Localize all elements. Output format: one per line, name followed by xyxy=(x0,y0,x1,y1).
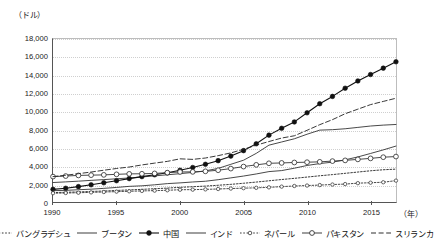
y-tick-label: 0 xyxy=(44,199,48,208)
series-marker-中国 xyxy=(317,101,322,106)
series-marker-パキスタン xyxy=(254,162,259,167)
legend-item-バングラデシュ[interactable]: バングラデシュ xyxy=(0,227,70,239)
series-marker-パキスタン xyxy=(355,157,360,162)
legend-item-ブータン[interactable]: ブータン xyxy=(76,227,132,239)
legend-key-icon xyxy=(370,228,392,238)
y-tick-label: 2,000 xyxy=(29,180,48,189)
series-marker-ネパール xyxy=(64,191,67,194)
legend-item-パキスタン[interactable]: パキスタン xyxy=(301,227,365,239)
x-axis-unit-label: （年） xyxy=(399,208,423,219)
x-tick-mark xyxy=(244,201,245,205)
series-marker-パキスタン xyxy=(203,169,208,174)
series-marker-パキスタン xyxy=(394,154,399,159)
series-marker-ネパール xyxy=(267,186,270,189)
x-tick-label: 2010 xyxy=(299,208,316,217)
y-tick-label: 8,000 xyxy=(29,125,48,134)
series-marker-ネパール xyxy=(343,182,346,185)
series-marker-中国 xyxy=(356,79,361,84)
series-marker-パキスタン xyxy=(330,159,335,164)
series-line-中国 xyxy=(53,62,396,190)
plot-area xyxy=(52,38,397,203)
series-marker-ネパール xyxy=(166,189,169,192)
series-marker-パキスタン xyxy=(305,160,310,165)
legend-label: スリランカ xyxy=(395,227,434,239)
series-marker-中国 xyxy=(102,181,107,186)
x-tick-label: 1995 xyxy=(107,208,124,217)
series-marker-ネパール xyxy=(51,191,54,194)
series-marker-パキスタン xyxy=(267,161,272,166)
series-marker-中国 xyxy=(203,162,208,167)
series-marker-ネパール xyxy=(242,186,245,189)
series-marker-パキスタン xyxy=(279,161,284,166)
series-marker-パキスタン xyxy=(127,171,132,176)
series-marker-中国 xyxy=(89,183,94,188)
legend-key-icon xyxy=(301,228,323,238)
series-marker-ネパール xyxy=(128,190,131,193)
legend-item-中国[interactable]: 中国 xyxy=(138,227,178,239)
y-tick-label: 4,000 xyxy=(29,162,48,171)
y-tick-label: 10,000 xyxy=(25,107,48,116)
x-tick-label: 2005 xyxy=(235,208,252,217)
y-tick-label: 12,000 xyxy=(25,89,48,98)
series-marker-ネパール xyxy=(140,189,143,192)
y-tick-label: 6,000 xyxy=(29,144,48,153)
legend-item-スリランカ[interactable]: スリランカ xyxy=(370,227,434,239)
series-marker-ネパール xyxy=(77,191,80,194)
legend-item-ネパール[interactable]: ネパール xyxy=(239,227,295,239)
legend-key-icon xyxy=(76,228,98,238)
series-marker-ネパール xyxy=(216,187,219,190)
series-marker-中国 xyxy=(330,94,335,99)
series-marker-パキスタン xyxy=(190,169,195,174)
series-marker-パキスタン xyxy=(292,160,297,165)
x-tick-mark xyxy=(371,201,372,205)
x-tick-mark xyxy=(180,201,181,205)
series-marker-ネパール xyxy=(191,188,194,191)
series-marker-中国 xyxy=(76,184,81,189)
series-marker-中国 xyxy=(229,154,234,159)
y-tick-label: 16,000 xyxy=(25,52,48,61)
x-tick-label: 2000 xyxy=(171,208,188,217)
legend-label: インド xyxy=(210,227,233,239)
series-marker-パキスタン xyxy=(165,170,170,175)
series-marker-中国 xyxy=(279,126,284,131)
series-marker-ネパール xyxy=(369,181,372,184)
series-marker-ネパール xyxy=(293,184,296,187)
series-marker-ネパール xyxy=(305,184,308,187)
series-marker-ネパール xyxy=(178,188,181,191)
series-marker-パキスタン xyxy=(101,172,106,177)
series-marker-ネパール xyxy=(318,183,321,186)
series-marker-ネパール xyxy=(229,187,232,190)
series-marker-ネパール xyxy=(153,189,156,192)
legend-key-icon xyxy=(239,228,261,238)
series-marker-ネパール xyxy=(89,191,92,194)
series-marker-中国 xyxy=(305,111,310,116)
series-marker-中国 xyxy=(114,178,119,183)
legend-item-インド[interactable]: インド xyxy=(185,227,233,239)
series-marker-ネパール xyxy=(204,188,207,191)
series-marker-パキスタン xyxy=(89,173,94,178)
legend-label: パキスタン xyxy=(326,227,365,239)
y-tick-label: 14,000 xyxy=(25,70,48,79)
series-marker-パキスタン xyxy=(178,170,183,175)
series-marker-ネパール xyxy=(331,183,334,186)
series-marker-パキスタン xyxy=(63,174,68,179)
series-marker-中国 xyxy=(292,120,297,125)
series-marker-中国 xyxy=(216,158,221,163)
x-tick-mark xyxy=(52,201,53,205)
x-tick-mark xyxy=(116,201,117,205)
series-marker-中国 xyxy=(394,59,399,64)
series-marker-ネパール xyxy=(356,181,359,184)
x-axis-tick-labels: 199019952000200520102015 xyxy=(52,205,397,219)
series-marker-パキスタン xyxy=(343,158,348,163)
series-marker-ネパール xyxy=(102,190,105,193)
series-marker-ネパール xyxy=(115,190,118,193)
legend-label: バングラデシュ xyxy=(16,227,70,239)
series-marker-パキスタン xyxy=(114,172,119,177)
series-marker-ネパール xyxy=(255,186,258,189)
series-marker-パキスタン xyxy=(140,171,145,176)
x-tick-label: 2015 xyxy=(363,208,380,217)
series-marker-中国 xyxy=(267,133,272,138)
legend-label: ブータン xyxy=(101,227,132,239)
series-marker-パキスタン xyxy=(216,168,221,173)
